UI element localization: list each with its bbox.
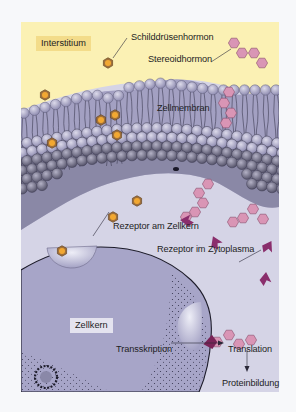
nuclear-receptor-label: Rezeptor am Zellkern — [113, 222, 199, 231]
lipid-head — [145, 79, 155, 89]
lipid-head — [239, 85, 249, 95]
lipid-head — [237, 159, 248, 170]
thyroid-hormone — [47, 138, 56, 149]
lipid-head — [187, 82, 197, 92]
lipid-head — [217, 155, 228, 166]
lipid-head — [97, 153, 108, 164]
lipid-head — [37, 180, 48, 191]
thyroid-hormone — [110, 110, 119, 121]
lipid-head — [242, 169, 253, 180]
lipid-head — [177, 151, 188, 162]
lipid-head — [21, 108, 29, 118]
interstitium-label: Interstitium — [36, 36, 91, 51]
lipid-head — [29, 105, 39, 115]
lipid-head — [134, 81, 144, 91]
lipid-head — [127, 150, 138, 161]
figure-frame: Interstitium Schilddrüsenhormon Stereoid… — [0, 0, 296, 412]
lipid-head — [40, 102, 50, 112]
lipid-head — [187, 152, 198, 163]
thyroid-hormone — [103, 58, 112, 69]
thyroid-hormone — [57, 246, 66, 257]
lipid-head — [117, 151, 128, 162]
lipid-head — [176, 81, 186, 91]
lipid-head — [124, 82, 134, 92]
lipid-head — [113, 91, 123, 101]
lipid-head — [208, 84, 218, 94]
lipid-head — [87, 154, 98, 165]
lipid-head — [197, 83, 207, 93]
lipid-head — [167, 150, 178, 161]
transcription-label: Transskription — [116, 345, 172, 354]
steroid-hormone-label: Stereoidhormon — [148, 55, 212, 64]
lipid-head — [267, 182, 278, 193]
lipid-head — [257, 180, 268, 191]
protein-synthesis-label: Proteinbildung — [222, 379, 279, 388]
thyroid-hormone-label: Schilddrüsenhormon — [131, 33, 213, 42]
lipid-head — [27, 182, 38, 193]
lipid-head — [82, 91, 92, 101]
nucleus-label: Zellkern — [70, 318, 113, 333]
lipid-head — [103, 93, 113, 103]
lipid-head — [42, 170, 53, 181]
lipid-head — [137, 150, 148, 161]
cell-membrane-label: Zellmembran — [157, 104, 210, 113]
thyroid-hormone — [112, 130, 121, 141]
lipid-head — [260, 85, 270, 95]
lipid-head — [61, 96, 71, 106]
lipid-head — [227, 157, 238, 168]
thyroid-hormone — [96, 115, 105, 126]
lipid-head — [155, 78, 165, 88]
lipid-head — [207, 154, 218, 165]
lipid-head — [71, 94, 81, 104]
lipid-head — [166, 79, 176, 89]
membrane-pore — [173, 167, 179, 171]
lipid-head — [250, 85, 260, 95]
lipid-head — [67, 157, 78, 168]
lipid-head — [247, 178, 258, 189]
lipid-head — [50, 99, 60, 109]
thyroid-hormone — [40, 90, 49, 101]
lipid-head — [92, 90, 102, 100]
lipid-head — [77, 155, 88, 166]
cytoplasmic-receptor-label: Rezeptor im Zytoplasma — [157, 245, 254, 254]
lipid-head — [271, 85, 279, 95]
lipid-head — [197, 153, 208, 164]
lipid-head — [157, 150, 168, 161]
translation-label: Translation — [228, 345, 272, 354]
lipid-head — [147, 150, 158, 161]
lipid-head — [57, 158, 68, 169]
lipid-head — [52, 168, 63, 179]
lipid-head — [107, 151, 118, 162]
thyroid-hormone — [132, 196, 141, 207]
hormone-action-diagram — [21, 22, 279, 392]
